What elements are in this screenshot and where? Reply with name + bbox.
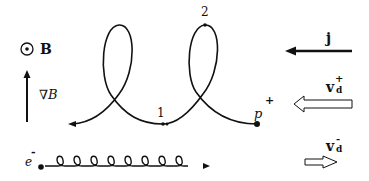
proton-label: p [254,107,262,120]
ion-drift-arrow-icon [294,96,352,112]
electron-drift-arrow-icon [305,156,337,168]
b-field-out-of-page-icon [21,43,33,55]
ion-drift-label: v [326,80,334,94]
proton-start-dot [254,121,260,127]
gradient-arrow-icon [24,70,31,122]
point-2-label: 2 [201,6,209,18]
electron-trajectory [45,156,188,166]
electron-drift-superscript: - [336,134,340,144]
point-1-label: 1 [157,107,165,119]
current-label: j [326,31,331,45]
electron-drift-subscript: d [336,145,342,154]
current-arrow-icon [285,47,352,56]
electron-direction-arrow-icon [203,163,210,169]
electron-start-dot [38,164,44,170]
electron-drift-label: v [326,139,334,153]
b-field-label: B [40,42,52,56]
electron-charge: - [31,147,36,158]
proton-direction-arrow-icon [68,121,76,127]
ion-drift-subscript: d [336,86,342,95]
ion-drift-superscript: + [335,74,343,84]
point-2-marker [203,23,207,27]
proton-charge: + [265,95,274,106]
gradient-label: ∇B [39,88,58,101]
